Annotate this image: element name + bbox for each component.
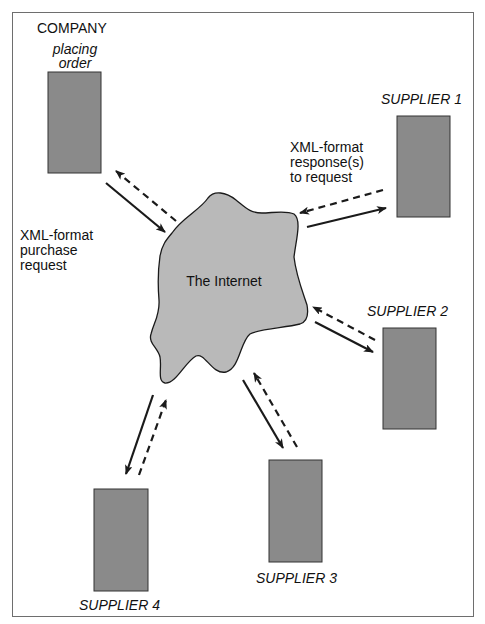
request-label-line1: XML-format xyxy=(20,228,93,243)
supplier-2-label: SUPPLIER 2 xyxy=(367,304,448,319)
supplier-3-box xyxy=(269,460,322,562)
supplier-1-response-arrow xyxy=(300,190,383,213)
company-title: COMPANY xyxy=(37,21,107,36)
supplier-1-label: SUPPLIER 1 xyxy=(381,92,462,107)
request-label-line3: request xyxy=(20,258,67,273)
supplier-2-request-arrow xyxy=(315,322,373,352)
company-response-arrow xyxy=(116,171,176,221)
response-label-line1: XML-format xyxy=(290,140,363,155)
supplier-4-response-arrow xyxy=(139,400,166,475)
supplier-3-label: SUPPLIER 3 xyxy=(256,571,337,586)
company-request-arrow xyxy=(106,183,165,232)
supplier-2-response-arrow xyxy=(313,307,375,340)
supplier-1-box xyxy=(397,116,450,217)
supplier-4-label: SUPPLIER 4 xyxy=(79,598,160,613)
supplier-4-request-arrow xyxy=(126,395,153,474)
response-label-line2: response(s) xyxy=(290,155,364,170)
response-label-line3: to request xyxy=(290,170,352,185)
company-subtitle-line2: order xyxy=(59,56,92,71)
internet-label: The Internet xyxy=(186,274,262,289)
request-label-line2: purchase xyxy=(20,243,78,258)
supplier-2-box xyxy=(383,328,436,429)
supplier-1-request-arrow xyxy=(307,208,386,227)
company-box xyxy=(48,72,101,173)
supplier-4-box xyxy=(94,489,148,591)
